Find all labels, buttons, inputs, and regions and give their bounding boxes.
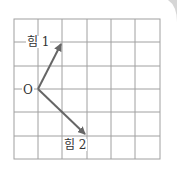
force-1-label: 힘 1 [26, 36, 50, 48]
page-corner [168, 0, 177, 22]
origin-label: O [22, 84, 34, 96]
force-2-label: 힘 2 [63, 139, 87, 151]
